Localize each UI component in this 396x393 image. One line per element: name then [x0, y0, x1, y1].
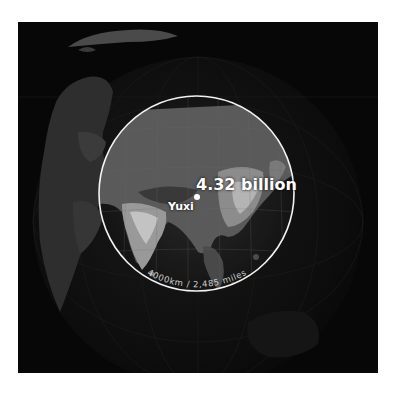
circle-dot-icon[interactable] [194, 194, 200, 200]
globe-canvas[interactable] [18, 22, 378, 373]
cropped-header-text [18, 0, 138, 3]
globe-map[interactable]: 4.32 billion Yuxi 4000km / 2,485 miles [18, 22, 378, 373]
center-city-label: Yuxi [168, 200, 194, 213]
population-label: 4.32 billion [196, 175, 297, 194]
